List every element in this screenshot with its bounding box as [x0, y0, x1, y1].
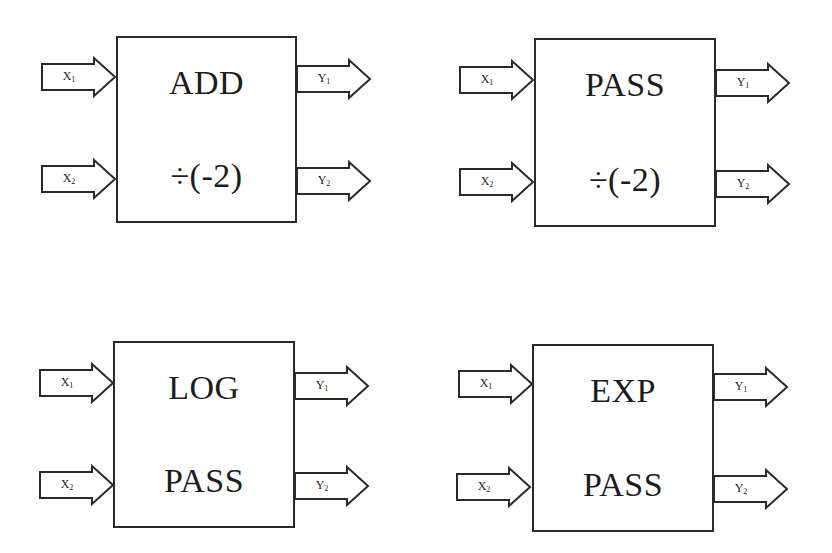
- block-top-operation: PASS: [536, 68, 714, 102]
- output-label-y1: Y1: [294, 378, 350, 396]
- block-add-divide: ADD ÷(-2): [116, 36, 297, 223]
- output-label-y2: Y2: [296, 173, 352, 191]
- input-arrow-x2: X2: [39, 465, 115, 505]
- output-label-y2: Y2: [715, 176, 771, 194]
- output-arrow-y2: Y2: [713, 469, 789, 509]
- input-arrow-x2: X2: [456, 467, 532, 507]
- output-arrow-y1: Y1: [713, 367, 789, 407]
- input-arrow-x1: X1: [41, 57, 117, 97]
- output-label-y2: Y2: [713, 481, 769, 499]
- block-top-operation: LOG: [115, 371, 293, 405]
- input-label-x2: X2: [41, 171, 97, 189]
- block-bottom-operation: PASS: [115, 464, 293, 498]
- input-arrow-x2: X2: [459, 162, 535, 202]
- output-label-y1: Y1: [296, 71, 352, 89]
- input-arrow-x1: X1: [39, 363, 115, 403]
- input-label-x1: X1: [39, 375, 95, 393]
- output-arrow-y2: Y2: [715, 164, 791, 204]
- output-arrow-y1: Y1: [715, 63, 791, 103]
- block-pass-divide: PASS ÷(-2): [534, 38, 716, 227]
- input-arrow-x2: X2: [41, 159, 117, 199]
- output-label-y1: Y1: [715, 75, 771, 93]
- input-label-x1: X1: [41, 69, 97, 87]
- block-bottom-operation: PASS: [534, 468, 712, 502]
- output-arrow-y2: Y2: [296, 161, 372, 201]
- input-arrow-x1: X1: [459, 60, 535, 100]
- output-arrow-y1: Y1: [294, 366, 370, 406]
- output-arrow-y2: Y2: [294, 466, 370, 506]
- input-label-x2: X2: [39, 477, 95, 495]
- diagram-canvas: ADD ÷(-2) X1 X2 Y1 Y2 PASS ÷(-2) X1 X2 Y…: [0, 0, 832, 553]
- block-bottom-operation: ÷(-2): [118, 159, 295, 193]
- input-label-x1: X1: [459, 72, 515, 90]
- block-log-pass: LOG PASS: [113, 341, 295, 528]
- input-arrow-x1: X1: [458, 364, 534, 404]
- input-label-x2: X2: [459, 174, 515, 192]
- input-label-x2: X2: [456, 479, 512, 497]
- input-label-x1: X1: [458, 376, 514, 394]
- output-label-y1: Y1: [713, 379, 769, 397]
- output-label-y2: Y2: [294, 478, 350, 496]
- block-bottom-operation: ÷(-2): [536, 163, 714, 197]
- output-arrow-y1: Y1: [296, 59, 372, 99]
- block-top-operation: ADD: [118, 66, 295, 100]
- block-top-operation: EXP: [534, 374, 712, 408]
- block-exp-pass: EXP PASS: [532, 344, 714, 532]
